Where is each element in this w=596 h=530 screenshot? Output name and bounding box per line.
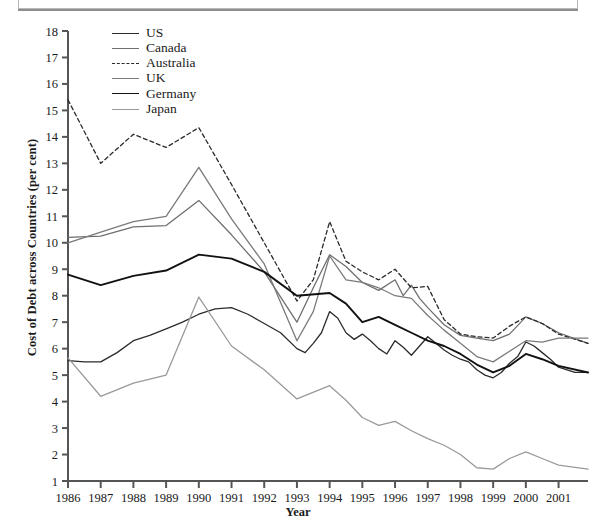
- x-tick-label: 1992: [252, 491, 277, 505]
- y-tick-label: 10: [46, 236, 59, 250]
- x-tick-label: 2001: [546, 491, 571, 505]
- legend-swatch-canada-icon: [112, 42, 139, 54]
- legend-label: Canada: [146, 41, 186, 55]
- y-tick-label: 18: [46, 25, 59, 39]
- y-tick-label: 2: [52, 448, 58, 462]
- y-tick-label: 14: [46, 130, 59, 144]
- y-axis: 123456789101112131415161718: [46, 25, 69, 489]
- chart-canvas: 123456789101112131415161718 198619871988…: [0, 0, 596, 530]
- x-tick-label: 2000: [513, 491, 538, 505]
- y-tick-label: 9: [52, 263, 58, 277]
- legend-item-uk[interactable]: UK: [112, 71, 196, 86]
- legend-label: Australia: [146, 56, 196, 70]
- legend-swatch-uk-icon: [112, 72, 139, 84]
- y-tick-label: 17: [46, 51, 59, 65]
- legend-swatch-japan-icon: [112, 103, 139, 115]
- data-series-group: [68, 100, 588, 469]
- x-tick-label: 1993: [284, 491, 309, 505]
- x-axis-title: Year: [0, 505, 596, 520]
- y-tick-label: 5: [52, 369, 58, 383]
- series-line-us: [68, 308, 588, 378]
- x-tick-label: 1998: [448, 491, 473, 505]
- line-chart: 123456789101112131415161718 198619871988…: [0, 0, 596, 530]
- y-tick-label: 7: [52, 316, 58, 330]
- chart-legend: USCanadaAustraliaUKGermanyJapan: [112, 25, 196, 116]
- series-line-japan: [68, 297, 588, 469]
- legend-item-australia[interactable]: Australia: [112, 55, 196, 70]
- y-tick-label: 12: [46, 183, 59, 197]
- x-tick-label: 1995: [350, 491, 375, 505]
- x-axis: 1986198719881989199019911992199319941995…: [56, 481, 589, 505]
- y-tick-label: 13: [46, 157, 59, 171]
- legend-swatch-australia-icon: [112, 57, 139, 69]
- x-tick-label: 1990: [186, 491, 211, 505]
- legend-label: UK: [146, 71, 166, 85]
- x-tick-label: 1989: [154, 491, 179, 505]
- legend-swatch-us-icon: [112, 27, 139, 39]
- legend-item-germany[interactable]: Germany: [112, 86, 196, 101]
- y-tick-label: 8: [52, 289, 58, 303]
- legend-label: Germany: [146, 87, 196, 101]
- legend-item-japan[interactable]: Japan: [112, 101, 196, 116]
- y-tick-label: 6: [52, 342, 58, 356]
- series-line-canada: [68, 200, 588, 343]
- x-tick-label: 1991: [219, 491, 244, 505]
- y-tick-label: 15: [46, 104, 59, 118]
- legend-swatch-germany-icon: [112, 87, 139, 99]
- y-tick-label: 16: [46, 77, 59, 91]
- x-tick-label: 1999: [481, 491, 506, 505]
- x-tick-label: 1997: [415, 491, 440, 505]
- x-tick-label: 1988: [121, 491, 146, 505]
- legend-label: US: [146, 26, 163, 40]
- y-tick-label: 11: [46, 210, 58, 224]
- x-tick-label: 1986: [56, 491, 81, 505]
- y-tick-label: 1: [52, 475, 58, 489]
- y-axis-title: Cost of Debt across Countries (per cent): [25, 123, 40, 373]
- y-tick-label: 3: [52, 422, 58, 436]
- x-tick-label: 1987: [88, 491, 113, 505]
- x-tick-label: 1994: [317, 491, 343, 505]
- series-line-germany: [68, 255, 588, 373]
- legend-item-canada[interactable]: Canada: [112, 40, 196, 55]
- x-tick-label: 1996: [383, 491, 408, 505]
- legend-label: Japan: [146, 102, 177, 116]
- legend-item-us[interactable]: US: [112, 25, 196, 40]
- y-tick-label: 4: [52, 395, 59, 409]
- series-line-australia: [68, 100, 588, 344]
